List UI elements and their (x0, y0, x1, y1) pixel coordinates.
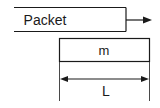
segment-m-label: m (99, 44, 110, 57)
length-label: L (102, 84, 110, 98)
dimension-arrow-left-icon (60, 76, 68, 82)
arrow-right-icon (143, 17, 152, 24)
dimension-arrow-right-icon (141, 76, 149, 82)
packet-label: Packet (24, 13, 67, 27)
